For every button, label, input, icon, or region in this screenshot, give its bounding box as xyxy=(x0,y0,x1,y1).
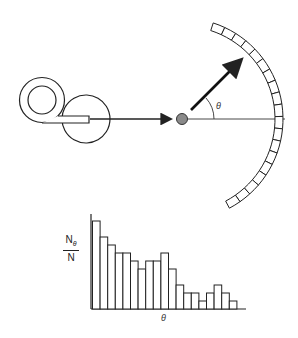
histogram-bar xyxy=(207,293,215,309)
numerator-subscript: θ xyxy=(73,240,77,247)
histogram-bar xyxy=(222,293,230,309)
y-axis-label-denominator: N xyxy=(61,252,81,263)
y-axis-label-numerator: Nθ xyxy=(61,234,81,249)
fraction-bar xyxy=(63,250,79,251)
coil-tube-exit xyxy=(42,116,89,123)
x-axis-label: θ xyxy=(161,313,166,323)
histogram-bar xyxy=(161,253,169,309)
histogram-bar xyxy=(93,221,101,309)
histogram-bar xyxy=(146,261,154,309)
target-icon xyxy=(177,114,188,125)
detector-segment xyxy=(275,116,283,128)
detector-arc xyxy=(211,23,283,208)
source-coil-detail xyxy=(20,78,90,124)
histogram-bar xyxy=(214,285,222,309)
angle-label: θ xyxy=(216,101,221,111)
histogram-bar xyxy=(229,301,237,309)
histogram-bar xyxy=(191,293,199,309)
numerator-text: N xyxy=(65,234,72,245)
histogram-bar xyxy=(131,261,139,309)
histogram-bar xyxy=(115,253,123,309)
histogram-bar xyxy=(184,293,192,309)
histogram-bar xyxy=(169,269,177,309)
histogram-bar xyxy=(100,237,108,309)
scattering-diagram xyxy=(0,0,298,338)
histogram-bar xyxy=(123,253,131,309)
histogram-bar xyxy=(153,261,161,309)
angle-arc xyxy=(206,98,214,119)
y-axis-label: Nθ N xyxy=(61,234,81,263)
detector-segment xyxy=(272,92,282,105)
detector-segment xyxy=(273,128,283,141)
histogram-bars xyxy=(93,221,237,309)
histogram-bar xyxy=(138,269,146,309)
histogram-bar xyxy=(199,301,207,309)
coil-inner-circle xyxy=(28,86,56,114)
histogram-bar xyxy=(108,245,116,309)
coil-outer-circle xyxy=(20,78,65,123)
detector-segment xyxy=(274,104,283,117)
histogram-bar xyxy=(176,285,184,309)
